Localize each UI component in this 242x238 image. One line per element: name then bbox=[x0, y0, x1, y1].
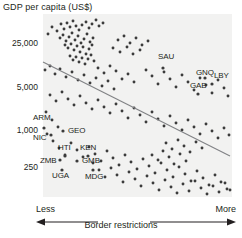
scatter-point bbox=[127, 73, 130, 76]
scatter-point bbox=[109, 65, 112, 68]
scatter-point bbox=[158, 189, 161, 192]
scatter-point bbox=[57, 126, 60, 129]
scatter-point bbox=[206, 193, 209, 196]
scatter-point bbox=[134, 178, 137, 181]
scatter-point bbox=[208, 184, 211, 187]
scatter-point bbox=[163, 71, 166, 74]
point-label-uga: UGA bbox=[52, 171, 69, 180]
annotated-scatter-point bbox=[210, 82, 213, 85]
scatter-point bbox=[123, 35, 126, 38]
scatter-point bbox=[64, 44, 67, 47]
scatter-point bbox=[118, 164, 121, 167]
scatter-point bbox=[79, 95, 82, 98]
scatter-point bbox=[67, 47, 70, 50]
scatter-point bbox=[169, 115, 172, 118]
scatter-point bbox=[85, 53, 88, 56]
scatter-point bbox=[223, 127, 226, 130]
scatter-point bbox=[194, 180, 197, 183]
scatter-point bbox=[113, 88, 116, 91]
scatter-point bbox=[175, 86, 178, 89]
scatter-point bbox=[81, 24, 84, 27]
scatter-point bbox=[179, 153, 182, 156]
scatter-point bbox=[83, 38, 86, 41]
scatter-point bbox=[182, 183, 185, 186]
scatter-point bbox=[163, 125, 166, 128]
annotated-scatter-point bbox=[196, 92, 199, 95]
scatter-point bbox=[151, 111, 154, 114]
point-label-zmb: ZMB bbox=[40, 156, 57, 165]
scatter-point bbox=[117, 39, 120, 42]
y-axis-tick-label: 250 bbox=[0, 162, 38, 172]
scatter-point bbox=[171, 148, 174, 151]
scatter-point bbox=[67, 98, 70, 101]
annotated-scatter-point bbox=[61, 129, 64, 132]
scatter-point bbox=[177, 139, 180, 142]
annotated-scatter-point bbox=[75, 159, 78, 162]
scatter-point bbox=[141, 44, 144, 47]
scatter-point bbox=[84, 63, 87, 66]
point-label-arm: ARM bbox=[33, 113, 50, 122]
x-axis-arrows bbox=[0, 198, 242, 238]
scatter-point bbox=[184, 173, 187, 176]
scatter-point bbox=[220, 181, 223, 184]
scatter-point bbox=[223, 87, 226, 90]
scatter-point bbox=[51, 26, 54, 29]
scatter-point bbox=[145, 69, 148, 72]
scatter-point bbox=[110, 167, 113, 170]
scatter-point bbox=[79, 51, 82, 54]
scatter-point bbox=[97, 99, 100, 102]
scatter-point bbox=[89, 82, 92, 85]
scatter-point bbox=[98, 169, 101, 172]
point-label-gmb: GMB bbox=[82, 156, 100, 165]
scatter-point bbox=[69, 26, 72, 29]
point-label-mdg: MDG bbox=[85, 172, 103, 181]
scatter-point bbox=[76, 149, 79, 152]
scatter-point bbox=[130, 161, 133, 164]
scatter-point bbox=[75, 25, 78, 28]
scatter-point bbox=[185, 160, 188, 163]
scatter-point bbox=[212, 185, 215, 188]
scatter-point bbox=[211, 92, 214, 95]
scatter-point bbox=[193, 126, 196, 129]
scatter-point bbox=[69, 55, 72, 58]
scatter-point bbox=[91, 108, 94, 111]
scatter-point bbox=[187, 81, 190, 84]
scatter-point bbox=[75, 56, 78, 59]
scatter-point bbox=[73, 104, 76, 107]
scatter-point bbox=[82, 46, 85, 49]
scatter-point bbox=[190, 180, 193, 183]
scatter-point bbox=[151, 154, 154, 157]
scatter-point bbox=[201, 147, 204, 150]
scatter-point bbox=[93, 60, 96, 63]
point-label-gnq: GNQ bbox=[196, 68, 214, 77]
scatter-point bbox=[148, 165, 151, 168]
scatter-point bbox=[205, 123, 208, 126]
scatter-point bbox=[199, 133, 202, 136]
scatter-point bbox=[103, 72, 106, 75]
scatter-point bbox=[115, 103, 118, 106]
y-axis-tick-label: 25,000 bbox=[0, 38, 38, 48]
scatter-point bbox=[157, 83, 160, 86]
scatter-point bbox=[128, 171, 131, 174]
annotated-scatter-point bbox=[161, 66, 164, 69]
scatter-point bbox=[88, 48, 91, 51]
scatter-point bbox=[200, 187, 203, 190]
scatter-point bbox=[55, 100, 58, 103]
scatter-point bbox=[139, 49, 142, 52]
scatter-point bbox=[106, 150, 109, 153]
scatter-point bbox=[227, 95, 230, 98]
scatter-point bbox=[147, 40, 150, 43]
scatter-point bbox=[78, 29, 81, 32]
scatter-point bbox=[88, 27, 91, 30]
scatter-point bbox=[178, 166, 181, 169]
scatter-point bbox=[202, 177, 205, 180]
scatter-point bbox=[80, 42, 83, 45]
scatter-point bbox=[121, 110, 124, 113]
scatter-point bbox=[73, 49, 76, 52]
scatter-point bbox=[102, 22, 105, 25]
scatter-point bbox=[54, 73, 57, 76]
scatter-point bbox=[162, 150, 165, 153]
scatter-point bbox=[68, 36, 71, 39]
scatter-point bbox=[127, 117, 130, 120]
scatter-point bbox=[65, 40, 68, 43]
